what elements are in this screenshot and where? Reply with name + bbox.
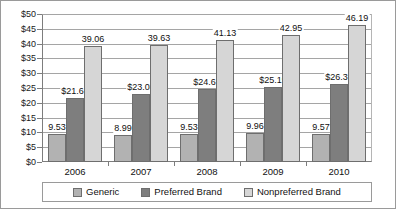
bar-group-2008: 9.53$24.6241.13 [180, 14, 234, 162]
x-axis-label-2007: 2007 [130, 167, 151, 177]
bar-nonpreferred-brand-2008 [216, 40, 234, 162]
bar-group-2006: 9.53$21.6139.06 [48, 14, 102, 162]
x-axis-tick-mark [306, 162, 307, 166]
y-axis-tick-label: $20 [21, 98, 36, 107]
bar-value-label: 9.53 [179, 123, 199, 132]
bar-preferred-brand-2010 [330, 84, 348, 162]
bar-nonpreferred-brand-2010 [348, 25, 366, 162]
bar-generic-2009 [246, 133, 264, 162]
legend-label: Nonpreferred Brand [257, 187, 341, 197]
bar-value-label: 42.95 [279, 24, 304, 33]
bar-value-label: 39.06 [81, 35, 106, 44]
y-axis-tick-label: $25 [21, 84, 36, 93]
y-axis: $0$5$10$15$20$25$30$35$40$45$50 [1, 14, 42, 162]
bar-slot: 46.19 [348, 14, 366, 162]
legend-swatch-icon [244, 188, 253, 197]
x-axis-label-2009: 2009 [262, 167, 283, 177]
legend-item-nonpreferred-brand[interactable]: Nonpreferred Brand [244, 187, 341, 197]
bar-slot: 41.13 [216, 14, 234, 162]
y-axis-tick-label: $10 [21, 128, 36, 137]
legend-swatch-icon [73, 188, 82, 197]
x-axis: 20062007200820092010 [42, 162, 372, 182]
y-axis-tick-label: $35 [21, 54, 36, 63]
legend-label: Generic [86, 187, 119, 197]
x-axis-tick-mark [108, 162, 109, 166]
bar-slot: 42.95 [282, 14, 300, 162]
y-axis-tick-label: $50 [21, 10, 36, 19]
bar-nonpreferred-brand-2009 [282, 35, 300, 162]
bar-value-label: 39.63 [147, 34, 172, 43]
x-axis-label-2006: 2006 [64, 167, 85, 177]
y-axis-tick-label: $45 [21, 24, 36, 33]
bar-nonpreferred-brand-2007 [150, 45, 168, 162]
x-axis-tick-mark [174, 162, 175, 166]
bar-generic-2010 [312, 134, 330, 162]
y-axis-tick-label: $40 [21, 39, 36, 48]
bar-generic-2007 [114, 135, 132, 162]
bar-slot: 9.53 [180, 14, 198, 162]
bar-group-2010: 9.57$26.3146.19 [312, 14, 366, 162]
bar-preferred-brand-2008 [198, 89, 216, 162]
bar-value-label: 9.96 [245, 122, 265, 131]
legend-label: Preferred Brand [154, 187, 222, 197]
bar-slot: 39.06 [84, 14, 102, 162]
legend-item-preferred-brand[interactable]: Preferred Brand [141, 187, 222, 197]
y-axis-tick-label: $0 [26, 158, 36, 167]
bar-generic-2006 [48, 134, 66, 162]
bar-value-label: 9.57 [311, 123, 331, 132]
y-axis-tick-label: $15 [21, 113, 36, 122]
bar-slot: $25.19 [264, 14, 282, 162]
bar-slot: 9.57 [312, 14, 330, 162]
legend-swatch-icon [141, 188, 150, 197]
bar-nonpreferred-brand-2006 [84, 46, 102, 162]
x-axis-label-2010: 2010 [328, 167, 349, 177]
bar-slot: 39.63 [150, 14, 168, 162]
bar-slot: $26.31 [330, 14, 348, 162]
bar-value-label: 46.19 [345, 14, 370, 23]
bar-preferred-brand-2006 [66, 98, 84, 162]
bar-slot: 9.96 [246, 14, 264, 162]
bars-layer: 9.53$21.6139.068.99$23.0839.639.53$24.62… [42, 14, 372, 162]
bar-group-2009: 9.96$25.1942.95 [246, 14, 300, 162]
bar-preferred-brand-2007 [132, 94, 150, 162]
bar-generic-2008 [180, 134, 198, 162]
bar-value-label: 41.13 [213, 29, 238, 38]
y-axis-tick-label: $5 [26, 143, 36, 152]
bar-value-label: 8.99 [113, 124, 133, 133]
y-axis-tick-label: $30 [21, 69, 36, 78]
bar-value-label: 9.53 [47, 123, 67, 132]
x-axis-tick-mark [240, 162, 241, 166]
legend-item-generic[interactable]: Generic [73, 187, 119, 197]
x-axis-label-2008: 2008 [196, 167, 217, 177]
bar-group-2007: 8.99$23.0839.63 [114, 14, 168, 162]
bar-chart: $0$5$10$15$20$25$30$35$40$45$50 9.53$21.… [0, 0, 396, 209]
bar-preferred-brand-2009 [264, 87, 282, 162]
chart-legend: GenericPreferred BrandNonpreferred Brand [42, 182, 372, 202]
